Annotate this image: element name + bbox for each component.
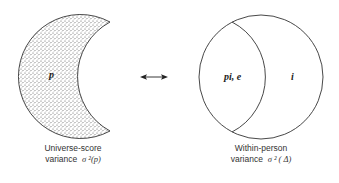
within-person-caption: Within-person variance σ ² ( Δ) xyxy=(216,143,306,165)
double-arrow-icon xyxy=(140,74,168,80)
universe-score-crescent xyxy=(18,14,110,138)
caption-symbol: σ ² ( Δ) xyxy=(268,154,292,164)
caption-prefix: variance xyxy=(45,154,77,164)
universe-score-caption: Universe-score variance σ ²(p) xyxy=(28,143,118,165)
within-person-caption-line2: variance σ ² ( Δ) xyxy=(216,154,306,165)
caption-symbol: σ ²(p) xyxy=(82,154,101,164)
caption-prefix: variance xyxy=(231,154,263,164)
region-label-p: p xyxy=(49,69,54,80)
universe-score-caption-line1: Universe-score xyxy=(28,143,118,154)
within-person-caption-line1: Within-person xyxy=(216,143,306,154)
universe-score-caption-line2: variance σ ²(p) xyxy=(28,154,118,165)
region-label-i: i xyxy=(291,71,294,82)
within-person-circle xyxy=(199,15,323,139)
region-label-pi-e: pi, e xyxy=(224,71,241,82)
